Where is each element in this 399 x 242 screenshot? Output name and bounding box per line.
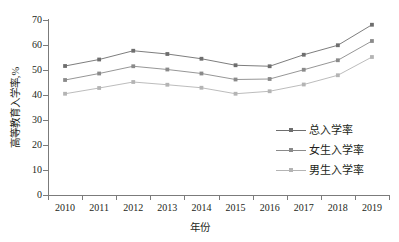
data-point bbox=[97, 86, 101, 90]
data-point bbox=[63, 64, 67, 68]
x-axis-title: 年份 bbox=[0, 219, 399, 234]
data-point bbox=[165, 68, 169, 72]
legend-swatch-total-icon bbox=[276, 125, 306, 135]
data-point bbox=[165, 83, 169, 87]
data-point bbox=[234, 63, 238, 67]
data-point bbox=[268, 64, 272, 68]
series-line-1 bbox=[65, 41, 372, 80]
data-point bbox=[165, 52, 169, 56]
legend-label-female: 女生入学率 bbox=[306, 144, 364, 156]
data-point bbox=[302, 53, 306, 57]
data-point bbox=[131, 49, 135, 53]
legend-swatch-female-icon bbox=[276, 145, 306, 155]
data-point bbox=[302, 83, 306, 87]
line-chart: 010203040506070 201020112012201320142015… bbox=[0, 0, 399, 242]
legend-label-total: 总入学率 bbox=[306, 124, 353, 136]
legend: 总入学率 女生入学率 男生入学率 bbox=[276, 120, 394, 180]
data-point bbox=[234, 78, 238, 82]
data-point bbox=[97, 72, 101, 76]
data-point bbox=[336, 43, 340, 47]
legend-item-female[interactable]: 女生入学率 bbox=[276, 140, 394, 160]
legend-label-male: 男生入学率 bbox=[306, 164, 364, 176]
data-point bbox=[370, 23, 374, 27]
y-axis-title: 高等教育入学率,% bbox=[7, 38, 22, 178]
data-point bbox=[200, 57, 204, 61]
data-point bbox=[302, 68, 306, 72]
series-line-2 bbox=[65, 57, 372, 94]
data-point bbox=[336, 73, 340, 77]
data-point bbox=[336, 58, 340, 62]
data-point bbox=[131, 64, 135, 68]
data-point bbox=[200, 72, 204, 76]
data-point bbox=[97, 58, 101, 62]
data-point bbox=[268, 89, 272, 93]
legend-swatch-male-icon bbox=[276, 165, 306, 175]
data-point bbox=[200, 86, 204, 90]
data-point bbox=[63, 78, 67, 82]
data-point bbox=[131, 80, 135, 84]
series-line-0 bbox=[65, 25, 372, 67]
data-point bbox=[63, 92, 67, 96]
legend-item-total[interactable]: 总入学率 bbox=[276, 120, 394, 140]
data-point bbox=[370, 55, 374, 59]
data-point bbox=[234, 92, 238, 96]
data-point bbox=[268, 77, 272, 81]
legend-item-male[interactable]: 男生入学率 bbox=[276, 160, 394, 180]
data-point bbox=[370, 39, 374, 43]
